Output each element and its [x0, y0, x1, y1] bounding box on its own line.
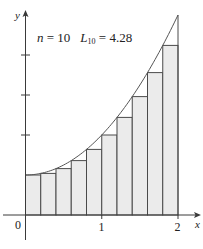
L-value: = 4.28	[96, 30, 133, 45]
rectangle-7	[132, 97, 147, 215]
rectangle-0	[26, 175, 41, 215]
riemann-sum-figure: y x 0 1 2 n = 10L10 = 4.28	[0, 0, 203, 249]
rectangle-2	[56, 169, 71, 215]
rectangle-8	[148, 73, 163, 215]
rectangle-3	[71, 161, 86, 215]
rectangle-9	[163, 45, 178, 215]
x-tick-label-2: 2	[175, 220, 181, 234]
y-axis-label: y	[14, 9, 20, 21]
sum-annotation: n = 10L10 = 4.28	[37, 30, 132, 46]
L-subscript: 10	[88, 37, 96, 46]
L-variable: L	[79, 30, 87, 45]
x-tick-label-0: 0	[15, 218, 21, 232]
rectangle-4	[87, 149, 102, 215]
n-value: = 10	[44, 30, 71, 45]
x-tick-label-1: 1	[99, 220, 105, 234]
x-axis-label: x	[194, 218, 200, 230]
rectangle-6	[117, 117, 132, 215]
rectangles	[26, 45, 179, 215]
rectangle-1	[41, 173, 56, 215]
rectangle-5	[102, 135, 117, 215]
